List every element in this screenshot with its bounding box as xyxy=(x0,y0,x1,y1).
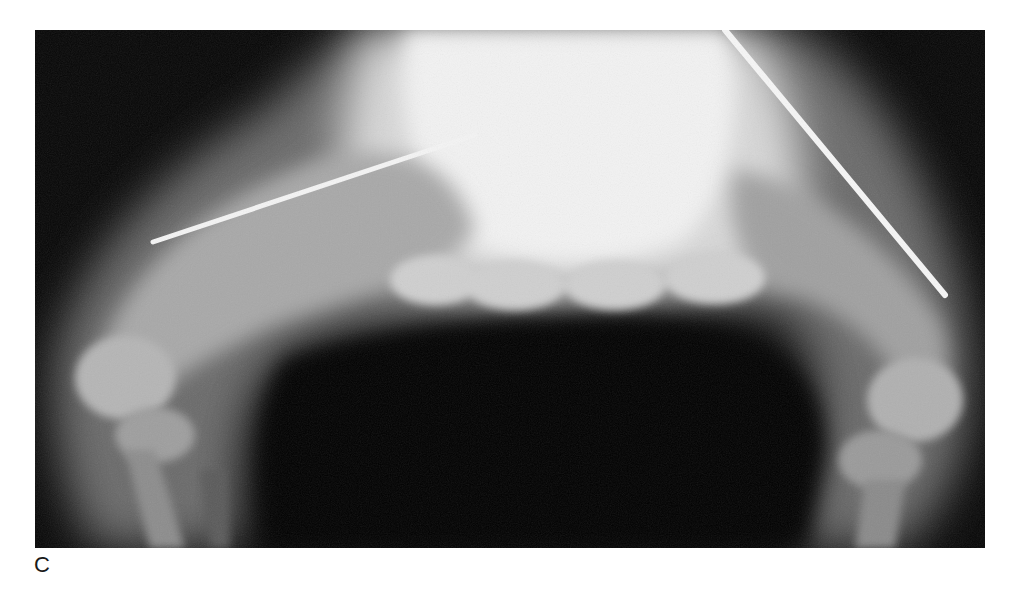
film-grain xyxy=(35,30,985,548)
panel-label: C xyxy=(34,552,50,578)
xray-image xyxy=(35,30,985,548)
